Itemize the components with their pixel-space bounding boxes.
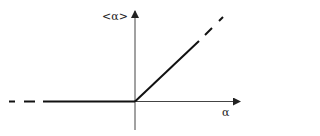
- positive-branch-dash-1: [205, 28, 212, 35]
- y-axis-label: <α>: [102, 11, 128, 22]
- x-axis-label: α: [222, 107, 229, 118]
- positive-branch-dash-2: [219, 17, 223, 21]
- positive-branch-solid: [135, 41, 199, 102]
